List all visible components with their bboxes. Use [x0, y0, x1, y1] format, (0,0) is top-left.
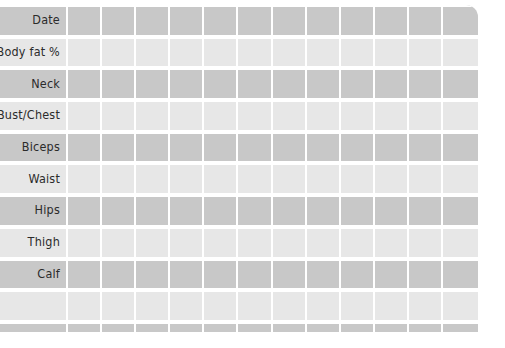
entry-cell[interactable] [409, 68, 443, 98]
entry-cell[interactable] [170, 100, 204, 130]
entry-cell[interactable] [238, 195, 272, 225]
entry-cell[interactable] [204, 195, 238, 225]
entry-cell[interactable] [307, 132, 341, 162]
entry-cell[interactable] [68, 132, 102, 162]
entry-cell[interactable] [238, 100, 272, 130]
entry-cell[interactable] [307, 322, 341, 332]
entry-cell[interactable] [307, 195, 341, 225]
entry-cell[interactable] [409, 37, 443, 67]
entry-cell[interactable] [273, 132, 307, 162]
entry-cell[interactable] [102, 5, 136, 35]
entry-cell[interactable] [341, 163, 375, 193]
entry-cell[interactable] [238, 322, 272, 332]
entry-cell[interactable] [273, 290, 307, 320]
entry-cell[interactable] [273, 195, 307, 225]
entry-cell[interactable] [204, 132, 238, 162]
entry-cell[interactable] [409, 227, 443, 257]
entry-cell[interactable] [375, 5, 409, 35]
entry-cell[interactable] [68, 259, 102, 289]
entry-cell[interactable] [102, 322, 136, 332]
entry-cell[interactable] [136, 132, 170, 162]
entry-cell[interactable] [273, 163, 307, 193]
entry-cell[interactable] [136, 5, 170, 35]
entry-cell[interactable] [170, 259, 204, 289]
entry-cell[interactable] [136, 100, 170, 130]
entry-cell[interactable] [170, 195, 204, 225]
entry-cell[interactable] [443, 5, 477, 35]
entry-cell[interactable] [136, 322, 170, 332]
entry-cell[interactable] [273, 322, 307, 332]
entry-cell[interactable] [341, 290, 375, 320]
entry-cell[interactable] [136, 227, 170, 257]
entry-cell[interactable] [136, 163, 170, 193]
entry-cell[interactable] [102, 132, 136, 162]
entry-cell[interactable] [204, 100, 238, 130]
entry-cell[interactable] [273, 5, 307, 35]
entry-cell[interactable] [238, 5, 272, 35]
entry-cell[interactable] [238, 290, 272, 320]
entry-cell[interactable] [136, 259, 170, 289]
entry-cell[interactable] [307, 290, 341, 320]
entry-cell[interactable] [238, 163, 272, 193]
entry-cell[interactable] [102, 163, 136, 193]
entry-cell[interactable] [170, 322, 204, 332]
entry-cell[interactable] [443, 37, 477, 67]
entry-cell[interactable] [238, 227, 272, 257]
entry-cell[interactable] [204, 259, 238, 289]
entry-cell[interactable] [341, 259, 375, 289]
entry-cell[interactable] [307, 5, 341, 35]
entry-cell[interactable] [307, 37, 341, 67]
entry-cell[interactable] [68, 227, 102, 257]
entry-cell[interactable] [409, 290, 443, 320]
entry-cell[interactable] [102, 195, 136, 225]
entry-cell[interactable] [238, 68, 272, 98]
entry-cell[interactable] [204, 163, 238, 193]
entry-cell[interactable] [375, 100, 409, 130]
entry-cell[interactable] [273, 37, 307, 67]
entry-cell[interactable] [136, 68, 170, 98]
entry-cell[interactable] [409, 163, 443, 193]
entry-cell[interactable] [204, 322, 238, 332]
entry-cell[interactable] [273, 68, 307, 98]
entry-cell[interactable] [307, 68, 341, 98]
entry-cell[interactable] [170, 5, 204, 35]
entry-cell[interactable] [102, 227, 136, 257]
entry-cell[interactable] [204, 290, 238, 320]
entry-cell[interactable] [341, 132, 375, 162]
entry-cell[interactable] [307, 227, 341, 257]
entry-cell[interactable] [375, 37, 409, 67]
entry-cell[interactable] [409, 195, 443, 225]
entry-cell[interactable] [409, 322, 443, 332]
entry-cell[interactable] [68, 163, 102, 193]
entry-cell[interactable] [443, 68, 477, 98]
entry-cell[interactable] [375, 163, 409, 193]
entry-cell[interactable] [204, 68, 238, 98]
entry-cell[interactable] [136, 290, 170, 320]
entry-cell[interactable] [341, 195, 375, 225]
entry-cell[interactable] [375, 68, 409, 98]
entry-cell[interactable] [238, 37, 272, 67]
entry-cell[interactable] [68, 322, 102, 332]
entry-cell[interactable] [273, 259, 307, 289]
entry-cell[interactable] [375, 227, 409, 257]
entry-cell[interactable] [204, 5, 238, 35]
entry-cell[interactable] [68, 195, 102, 225]
entry-cell[interactable] [341, 37, 375, 67]
entry-cell[interactable] [136, 37, 170, 67]
entry-cell[interactable] [341, 5, 375, 35]
entry-cell[interactable] [443, 290, 477, 320]
entry-cell[interactable] [136, 195, 170, 225]
entry-cell[interactable] [443, 163, 477, 193]
entry-cell[interactable] [170, 163, 204, 193]
entry-cell[interactable] [443, 322, 477, 332]
entry-cell[interactable] [375, 290, 409, 320]
entry-cell[interactable] [341, 100, 375, 130]
entry-cell[interactable] [102, 37, 136, 67]
entry-cell[interactable] [375, 322, 409, 332]
entry-cell[interactable] [170, 68, 204, 98]
entry-cell[interactable] [341, 227, 375, 257]
entry-cell[interactable] [307, 259, 341, 289]
entry-cell[interactable] [443, 195, 477, 225]
entry-cell[interactable] [443, 259, 477, 289]
entry-cell[interactable] [273, 227, 307, 257]
